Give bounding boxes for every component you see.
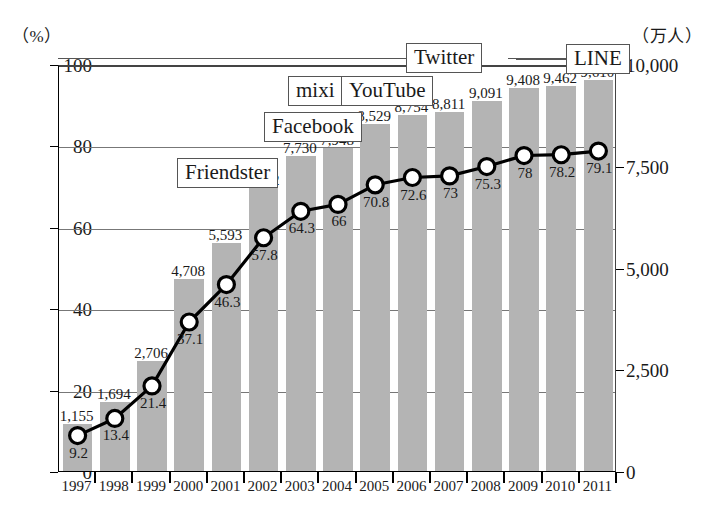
y-axis-right-tick-2500: 2,500 [626, 361, 669, 380]
x-axis-tickmark-2000 [206, 472, 208, 483]
y-axis-right-tick-5000: 5,000 [626, 259, 669, 278]
data-point-2011 [590, 143, 606, 159]
bar-value-label-2007: 8,811 [432, 97, 465, 112]
data-point-2009 [516, 148, 532, 164]
y-axis-right-tick-7500: 7,500 [626, 157, 669, 176]
y-axis-left-tickmark-20 [50, 391, 58, 392]
data-point-2007 [442, 168, 458, 184]
bar-value-label-1997: 1,155 [60, 409, 94, 424]
annotation-callout-twitter: Twitter [406, 43, 482, 73]
y-axis-right-tickmark-5000 [616, 269, 624, 270]
x-axis-label-2001: 2001 [210, 478, 240, 495]
x-axis-label-1999: 1999 [136, 478, 166, 495]
line-value-label-2009: 78 [518, 166, 533, 181]
line-value-label-1999: 21.4 [140, 396, 166, 411]
annotation-leader-line-left [516, 59, 566, 60]
data-point-1999 [144, 378, 160, 394]
x-axis-label-2011: 2011 [583, 478, 612, 495]
x-axis-tickmark-1999 [169, 472, 171, 483]
left-axis-unit-label: （%） [12, 22, 62, 47]
data-point-2003 [293, 203, 309, 219]
y-axis-right-tick-0: 0 [626, 463, 636, 482]
data-point-2005 [367, 177, 383, 193]
bar-value-label-2008: 9,091 [469, 86, 503, 101]
x-axis-label-2010: 2010 [545, 478, 575, 495]
line-value-label-2006: 72.6 [400, 188, 426, 203]
x-axis-label-2003: 2003 [285, 478, 315, 495]
y-axis-right-tickmark-7500 [616, 167, 624, 168]
line-value-label-2007: 73 [443, 186, 458, 201]
x-axis-label-1997: 1997 [62, 478, 92, 495]
x-axis-tickmark-1998 [131, 472, 133, 483]
data-point-2002 [256, 230, 272, 246]
bar-value-label-2001: 5,593 [209, 228, 243, 243]
x-axis-tickmark-2003 [317, 472, 319, 483]
bar-value-label-2005: 8,529 [357, 109, 391, 124]
annotation-leader-twitter-left [58, 58, 406, 59]
data-point-2004 [330, 196, 346, 212]
x-axis-label-2006: 2006 [396, 478, 426, 495]
x-axis-tickmark-2007 [466, 472, 468, 483]
x-axis-tickmark-2002 [280, 472, 282, 483]
x-axis-label-2005: 2005 [359, 478, 389, 495]
x-axis-label-2008: 2008 [471, 478, 501, 495]
line-value-label-2005: 70.8 [363, 195, 389, 210]
x-axis-label-1998: 1998 [99, 478, 129, 495]
x-axis-tickmark-2004 [355, 472, 357, 483]
y-axis-left-tickmark-80 [50, 146, 58, 147]
x-axis-label-2009: 2009 [508, 478, 538, 495]
data-point-1997 [70, 428, 86, 444]
data-point-2000 [181, 314, 197, 330]
bar-value-label-2000: 4,708 [171, 264, 205, 279]
x-axis-tickmark-1997 [94, 472, 96, 483]
x-axis-tickmark-2006 [429, 472, 431, 483]
line-value-label-1997: 9.2 [69, 446, 88, 461]
bar-value-label-1998: 1,694 [97, 387, 131, 402]
x-axis-label-2000: 2000 [173, 478, 203, 495]
y-axis-left-tickmark-0 [50, 472, 58, 473]
x-axis-tickmark-2005 [392, 472, 394, 483]
data-point-2006 [404, 170, 420, 186]
data-point-2010 [553, 147, 569, 163]
annotation-callout-youtube: YouTube [341, 76, 433, 106]
x-axis-label-2004: 2004 [322, 478, 352, 495]
line-value-label-2011: 79.1 [586, 161, 612, 176]
x-axis-tickmark-2011 [615, 472, 617, 483]
x-axis-tickmark-2009 [541, 472, 543, 483]
bar-value-label-1999: 2,706 [134, 346, 168, 361]
data-point-2001 [218, 277, 234, 293]
annotation-callout-line: LINE [566, 44, 630, 74]
data-point-1998 [107, 410, 123, 426]
y-axis-left-tickmark-60 [50, 228, 58, 229]
line-value-label-2008: 75.3 [475, 177, 501, 192]
annotation-callout-facebook: Facebook [264, 112, 362, 142]
bar-value-label-2009: 9,408 [506, 73, 540, 88]
x-axis-tickmark-2008 [503, 472, 505, 483]
line-value-label-2001: 46.3 [214, 295, 240, 310]
line-value-label-2003: 64.3 [289, 221, 315, 236]
y-axis-right-tickmark-2500 [616, 370, 624, 371]
annotation-callout-mixi: mixi [288, 76, 343, 106]
x-axis-label-2002: 2002 [248, 478, 278, 495]
right-axis-unit-label: （万人） [632, 22, 702, 47]
line-value-label-2010: 78.2 [549, 165, 575, 180]
annotation-callout-friendster: Friendster [177, 158, 278, 188]
line-value-label-1998: 13.4 [103, 428, 129, 443]
y-axis-right-tick-10000: 10,000 [626, 56, 678, 75]
x-axis-tickmark-2010 [578, 472, 580, 483]
line-value-label-2002: 57.8 [251, 248, 277, 263]
data-point-2008 [479, 159, 495, 175]
chart-root: （%） （万人） 02040608010002,5005,0007,50010,… [0, 0, 714, 523]
line-value-label-2004: 66 [332, 214, 347, 229]
line-value-label-2000: 37.1 [177, 332, 203, 347]
x-axis-tickmark-2001 [243, 472, 245, 483]
bar-value-label-2003: 7,730 [283, 141, 317, 156]
x-axis-label-2007: 2007 [434, 478, 464, 495]
y-axis-right-tickmark-0 [616, 472, 624, 473]
y-axis-left-tickmark-40 [50, 309, 58, 310]
y-axis-left-tickmark-100 [50, 65, 58, 66]
